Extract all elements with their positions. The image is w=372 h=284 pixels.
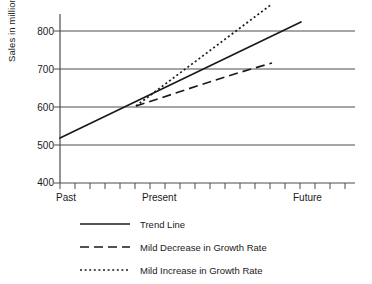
legend-label-trend-line: Trend Line	[140, 220, 185, 230]
y-axis-ticks	[54, 31, 60, 183]
series-trend-line	[60, 22, 301, 138]
gridlines	[60, 31, 355, 145]
chart-figure: Sales in millions 800 700 600 500 400 Pa…	[0, 0, 372, 284]
legend-label-mild-increase: Mild Increase in Growth Rate	[140, 266, 263, 276]
legend-label-mild-decrease: Mild Decrease in Growth Rate	[140, 243, 267, 253]
x-axis-ticks	[60, 183, 345, 189]
